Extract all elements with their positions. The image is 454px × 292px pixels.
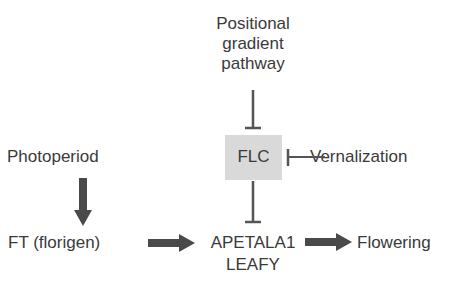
arrow-right-icon [305, 233, 352, 251]
arrow-right-icon [148, 234, 195, 252]
arrow-down-icon [74, 178, 92, 226]
inhibit-edge-positional-flc [245, 90, 261, 128]
diagram-edges [0, 0, 454, 292]
inhibit-edge-flc-apetala [245, 181, 261, 222]
inhibit-edge-vernalization-flc [288, 149, 325, 166]
